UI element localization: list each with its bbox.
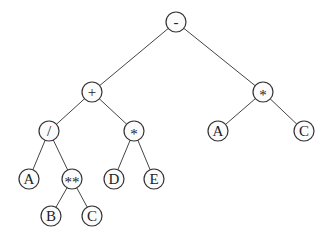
tree-node: B [41, 206, 61, 226]
node-label: B [46, 208, 56, 224]
node-label: * [130, 126, 138, 142]
node-label: - [174, 14, 179, 30]
node-label: + [88, 84, 96, 100]
edge-n0-n2 [184, 28, 255, 85]
tree-node: A [19, 169, 39, 189]
tree-node: A [208, 121, 228, 141]
tree-node: / [39, 121, 59, 141]
edge-n2-n6 [270, 99, 297, 124]
tree-node: ** [62, 169, 82, 190]
tree-node: * [124, 121, 144, 142]
tree-node: * [253, 82, 273, 103]
edge-n8-n11 [56, 188, 67, 208]
node-label: C [87, 208, 97, 224]
tree-node: C [294, 121, 314, 141]
node-label: A [213, 123, 224, 139]
edge-n1-n4 [99, 99, 126, 124]
tree-node: D [104, 169, 124, 189]
edge-n2-n5 [226, 99, 256, 125]
tree-node: + [82, 82, 102, 102]
edge-n3-n8 [53, 140, 67, 170]
edge-n0-n1 [100, 28, 169, 85]
tree-node: E [144, 169, 164, 189]
edge-n4-n9 [118, 140, 130, 170]
edge-n1-n3 [56, 99, 84, 125]
node-label: * [259, 87, 267, 103]
tree-node: - [166, 12, 186, 32]
node-label: D [109, 171, 120, 187]
expression-tree: -+*/*ACA**DEBC [0, 0, 330, 244]
node-label: E [149, 171, 158, 187]
tree-node: C [82, 206, 102, 226]
node-label: ** [65, 174, 80, 190]
node-label: A [24, 171, 35, 187]
edge-n4-n10 [138, 140, 150, 170]
node-label: C [299, 123, 309, 139]
edge-n3-n7 [33, 140, 45, 170]
edge-n8-n12 [77, 188, 87, 207]
